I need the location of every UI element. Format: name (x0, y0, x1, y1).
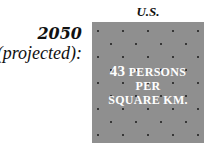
dot (110, 121, 112, 123)
dot (135, 121, 137, 123)
dot (135, 43, 137, 45)
dot (172, 30, 174, 32)
density-square: 43 PERSONS PER SQUARE KM. (92, 22, 204, 143)
dot (197, 134, 199, 136)
dot (147, 108, 149, 110)
dot (97, 108, 99, 110)
dot (97, 30, 99, 32)
dot (97, 134, 99, 136)
dot (172, 108, 174, 110)
dot (172, 134, 174, 136)
density-number: 43 (110, 63, 126, 79)
dot (147, 30, 149, 32)
density-text: 43 PERSONS PER SQUARE KM. (92, 64, 204, 107)
dot (160, 121, 162, 123)
dot (110, 43, 112, 45)
dot (147, 56, 149, 58)
dot (197, 30, 199, 32)
dot (122, 56, 124, 58)
dot (197, 56, 199, 58)
density-line-3: SQUARE KM. (92, 93, 204, 107)
dot (97, 56, 99, 58)
year-label: 2050 (37, 24, 82, 43)
dot (122, 108, 124, 110)
dot (197, 108, 199, 110)
dot (185, 43, 187, 45)
dot (122, 134, 124, 136)
dot (185, 121, 187, 123)
density-unit: PERSONS (129, 65, 186, 79)
column-title: U.S. (92, 4, 204, 20)
dot (160, 43, 162, 45)
dot (122, 30, 124, 32)
dot (172, 56, 174, 58)
dot (147, 134, 149, 136)
density-line-2: PER (92, 79, 204, 93)
projected-label: (projected): (0, 43, 82, 64)
density-line-1: 43 PERSONS (92, 64, 204, 79)
